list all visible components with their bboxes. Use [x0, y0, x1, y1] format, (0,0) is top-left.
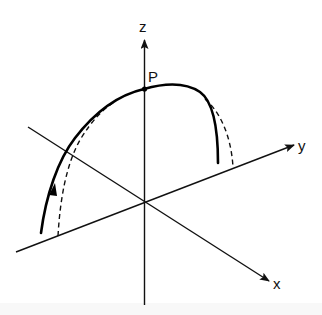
point-p: [142, 86, 147, 91]
x-axis-label: x: [273, 275, 281, 292]
point-p-label: P: [148, 68, 158, 85]
projection-curve-dashed: [58, 99, 233, 236]
trajectory-curve-solid: [41, 84, 218, 233]
scan-noise: [0, 303, 322, 315]
z-axis-label: z: [139, 18, 147, 35]
3d-axes-diagram: z y x P: [0, 0, 322, 315]
x-axis: [28, 127, 269, 281]
y-axis-label: y: [298, 137, 306, 154]
